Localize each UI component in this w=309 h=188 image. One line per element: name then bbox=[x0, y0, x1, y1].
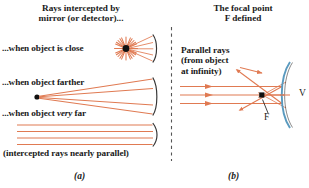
panel-b-heading-line1: The focal point bbox=[190, 3, 296, 13]
panel-b-heading-line2: F defined bbox=[190, 13, 296, 23]
focal-point-leader bbox=[263, 100, 269, 114]
label-object-veryfar: ...when object very far bbox=[2, 108, 86, 118]
note-nearly-parallel: (intercepted rays nearly parallel) bbox=[3, 148, 129, 158]
mirror-arc-close bbox=[153, 35, 157, 63]
label-object-veryfar-em: very bbox=[57, 108, 72, 118]
annotation-leader-arrow bbox=[240, 68, 262, 74]
ray-direction-arrows bbox=[205, 84, 213, 106]
optics-figure: Rays intercepted by mirror (or detector)… bbox=[0, 0, 309, 188]
label-object-farther: ...when object farther bbox=[2, 77, 84, 87]
panel-a-heading: Rays intercepted by mirror (or detector)… bbox=[22, 3, 140, 24]
figure-drawing bbox=[0, 0, 309, 188]
annotation-parallel-rays-line2: (from object bbox=[181, 55, 229, 65]
label-object-veryfar-pre: ...when object bbox=[2, 108, 57, 118]
panel-b-heading: The focal point F defined bbox=[190, 3, 296, 24]
annotation-parallel-rays: Parallel rays (from object at infinity) bbox=[181, 45, 229, 76]
focal-point-label: F bbox=[264, 112, 269, 123]
panel-a-heading-line1: Rays intercepted by bbox=[22, 3, 140, 13]
annotation-parallel-rays-line3: at infinity) bbox=[181, 66, 229, 76]
mirror-arc-farther bbox=[153, 78, 157, 116]
mirror-arc-veryfar bbox=[153, 123, 157, 147]
rays-object-veryfar bbox=[17, 125, 153, 145]
vertex-label: V bbox=[299, 88, 306, 99]
source-dot-farther bbox=[34, 94, 39, 99]
focal-point-marker bbox=[259, 92, 264, 97]
annotation-parallel-rays-line1: Parallel rays bbox=[181, 45, 229, 55]
label-object-close: ...when object is close bbox=[2, 43, 83, 53]
rays-object-close bbox=[129, 36, 153, 61]
panel-a-label: (a) bbox=[74, 171, 85, 182]
panel-a-heading-line2: mirror (or detector)... bbox=[22, 13, 140, 23]
label-object-veryfar-post: far bbox=[72, 108, 86, 118]
panel-b-label: (b) bbox=[228, 171, 239, 182]
